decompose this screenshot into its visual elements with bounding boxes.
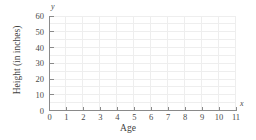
y-tick-label: 40 (22, 43, 44, 52)
x-tick-label: 4 (115, 113, 119, 122)
gridlines (49, 16, 236, 110)
y-axis-letter: y (51, 2, 55, 11)
y-tick-label: 50 (22, 28, 44, 37)
x-tick-label: 1 (64, 113, 68, 122)
x-tick-label: 2 (81, 113, 85, 122)
coordinate-grid-chart: 0102030405060 01234567891011 y x Age Hei… (0, 0, 256, 140)
x-tick-label: 6 (149, 113, 153, 122)
y-tick-label: 60 (22, 12, 44, 21)
y-tick-label: 20 (22, 75, 44, 84)
x-tick-label: 3 (98, 113, 102, 122)
x-tick-label: 9 (200, 113, 204, 122)
x-tick-label: 10 (215, 113, 224, 122)
plot-area (49, 16, 236, 110)
horizontal-gridlines (49, 16, 236, 110)
x-tick-label: 11 (232, 113, 240, 122)
x-tick-label: 7 (166, 113, 170, 122)
y-tick-label: 30 (22, 59, 44, 68)
x-tick-label: 5 (132, 113, 136, 122)
x-tick-label: 0 (47, 113, 51, 122)
x-tick-label: 8 (183, 113, 187, 122)
x-axis-title: Age (0, 123, 256, 133)
x-axis-letter: x (240, 99, 244, 108)
y-tick-label: 10 (22, 91, 44, 100)
y-tick-label: 0 (22, 106, 44, 115)
y-axis-title: Height (in inches) (12, 5, 22, 115)
